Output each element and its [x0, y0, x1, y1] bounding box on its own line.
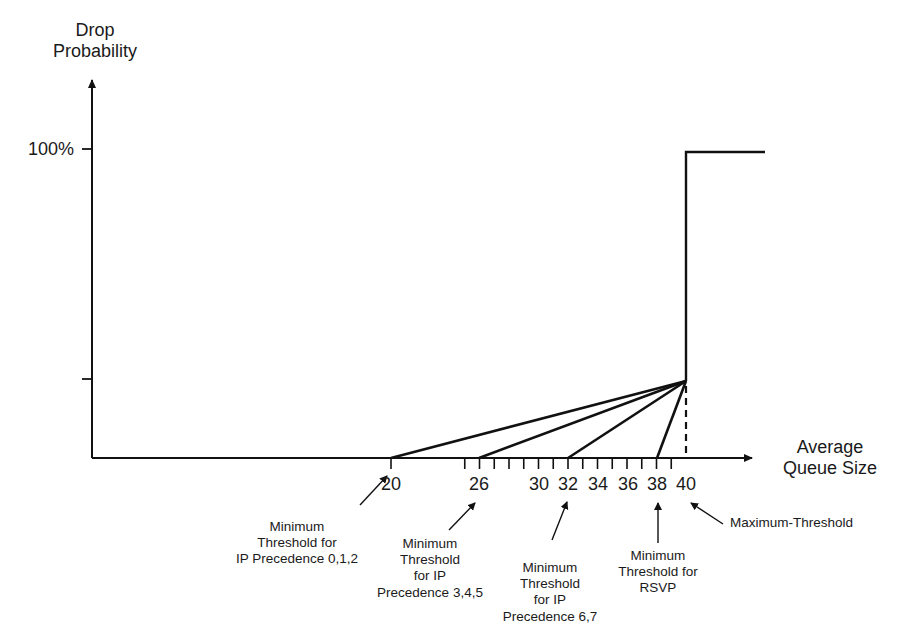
y-axis: [82, 80, 92, 458]
x-tick-label-30: 30: [529, 474, 549, 495]
annotation-prec-012: Minimum Threshold for IP Precedence 0,1,…: [222, 519, 372, 568]
ramp-prec-012: [391, 381, 686, 458]
arrow-prec-345: [449, 503, 475, 530]
x-tick-label-34: 34: [588, 474, 608, 495]
y-axis-label: Drop Probability: [35, 20, 155, 62]
annotation-prec-67: Minimum Threshold for IP Precedence 6,7: [485, 560, 615, 625]
x-axis-label: Average Queue Size: [770, 437, 890, 479]
x-tick-label-26: 26: [469, 474, 489, 495]
arrow-max: [691, 503, 723, 524]
y-tick-label-100: 100%: [10, 139, 74, 160]
x-tick-label-40: 40: [676, 474, 696, 495]
annotation-max-threshold: Maximum-Threshold: [730, 515, 880, 531]
x-axis-ticks: [391, 458, 671, 469]
max-threshold-step: [686, 152, 765, 381]
arrow-prec-67: [552, 502, 567, 540]
x-tick-label-32: 32: [558, 474, 578, 495]
x-tick-label-20: 20: [381, 474, 401, 495]
drop-profile-lines: [391, 152, 765, 458]
annotation-prec-345: Minimum Threshold for IP Precedence 3,4,…: [365, 536, 495, 601]
x-tick-label-36: 36: [618, 474, 638, 495]
ramp-rsvp: [657, 381, 686, 458]
x-tick-label-38: 38: [647, 474, 667, 495]
ramp-prec-345: [479, 381, 686, 458]
annotation-rsvp: Minimum Threshold for RSVP: [600, 548, 716, 597]
